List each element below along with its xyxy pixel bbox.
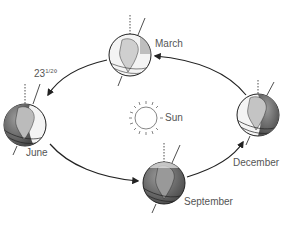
orbit-diagram	[0, 0, 296, 225]
june-label: June	[26, 147, 48, 158]
december-label: December	[233, 157, 279, 168]
globe-march	[108, 15, 154, 86]
march-label: March	[155, 38, 183, 49]
globe-june	[4, 84, 46, 155]
tilt-degrees: 23	[34, 68, 45, 79]
sun-icon	[129, 101, 163, 135]
sun-label: Sun	[165, 112, 183, 123]
tilt-angle-label: 231/2°	[34, 68, 57, 79]
globe-september	[143, 143, 186, 213]
degree-symbol: °	[53, 68, 57, 79]
september-label: September	[184, 196, 233, 207]
globe-december	[237, 80, 280, 145]
